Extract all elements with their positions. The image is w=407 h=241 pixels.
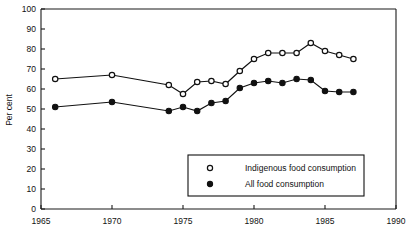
y-tick-label: 50 bbox=[27, 104, 37, 114]
x-axis-ticks bbox=[41, 205, 396, 209]
y-tick-label: 20 bbox=[27, 164, 37, 174]
data-point bbox=[251, 80, 256, 85]
x-tick-label: 1970 bbox=[103, 216, 122, 226]
x-tick-label: 1990 bbox=[387, 216, 406, 226]
legend-label-indigenous: Indigenous food consumption bbox=[245, 163, 356, 173]
chart-legend: Indigenous food consumption All food con… bbox=[188, 155, 364, 196]
data-point bbox=[166, 108, 171, 113]
data-point bbox=[266, 50, 271, 55]
chart-figure: 0102030405060708090100 19651970197519801… bbox=[0, 0, 407, 241]
y-axis-title: Per cent bbox=[4, 94, 14, 126]
data-point bbox=[308, 77, 313, 82]
y-tick-label: 0 bbox=[31, 204, 36, 214]
data-point bbox=[166, 82, 171, 87]
y-tick-label: 100 bbox=[22, 4, 36, 14]
y-tick-label: 80 bbox=[27, 44, 37, 54]
data-point bbox=[294, 50, 299, 55]
y-axis-ticks bbox=[41, 9, 45, 209]
data-point bbox=[322, 48, 327, 53]
data-point bbox=[237, 85, 242, 90]
data-point bbox=[109, 99, 114, 104]
data-point bbox=[180, 104, 185, 109]
data-point bbox=[280, 80, 285, 85]
x-tick-label: 1980 bbox=[245, 216, 264, 226]
line-chart-canvas: 0102030405060708090100 19651970197519801… bbox=[0, 0, 407, 241]
legend-marker-open-circle bbox=[207, 165, 212, 170]
x-tick-label: 1975 bbox=[174, 216, 193, 226]
legend-marker-filled-circle bbox=[207, 181, 212, 186]
data-point bbox=[195, 79, 200, 84]
legend-box bbox=[188, 155, 364, 196]
data-point bbox=[322, 88, 327, 93]
data-series-layer bbox=[53, 40, 357, 113]
x-axis-tick-labels: 196519701975198019851990 bbox=[32, 216, 406, 226]
data-point bbox=[294, 76, 299, 81]
data-point bbox=[195, 108, 200, 113]
data-point bbox=[308, 40, 313, 45]
data-point bbox=[337, 52, 342, 57]
y-tick-label: 30 bbox=[27, 144, 37, 154]
data-point bbox=[280, 50, 285, 55]
data-point bbox=[237, 68, 242, 73]
data-point bbox=[337, 89, 342, 94]
data-point bbox=[266, 78, 271, 83]
data-point bbox=[53, 76, 58, 81]
y-tick-label: 70 bbox=[27, 64, 37, 74]
y-tick-label: 40 bbox=[27, 124, 37, 134]
y-tick-label: 90 bbox=[27, 24, 37, 34]
data-point bbox=[180, 91, 185, 96]
data-point bbox=[351, 89, 356, 94]
x-tick-label: 1965 bbox=[32, 216, 51, 226]
series-indigenous bbox=[53, 40, 357, 96]
data-point bbox=[351, 56, 356, 61]
data-point bbox=[109, 72, 114, 77]
data-point bbox=[209, 100, 214, 105]
data-point bbox=[53, 104, 58, 109]
legend-label-all-food: All food consumption bbox=[245, 179, 324, 189]
data-point bbox=[223, 98, 228, 103]
y-tick-label: 10 bbox=[27, 184, 37, 194]
x-tick-label: 1985 bbox=[316, 216, 335, 226]
data-point bbox=[251, 56, 256, 61]
y-axis-tick-labels: 0102030405060708090100 bbox=[22, 4, 36, 214]
y-tick-label: 60 bbox=[27, 84, 37, 94]
series-line bbox=[55, 43, 353, 94]
data-point bbox=[209, 78, 214, 83]
data-point bbox=[223, 81, 228, 86]
series-line bbox=[55, 79, 353, 111]
